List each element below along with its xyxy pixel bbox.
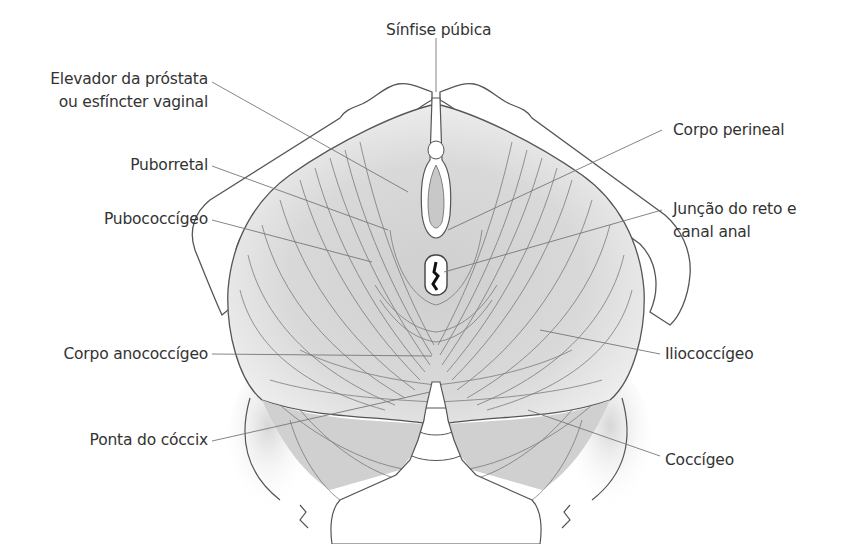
label-elevador-line1: Elevador da próstata	[50, 69, 208, 90]
label-corpo-perineal: Corpo perineal	[673, 120, 784, 141]
label-juncao-line2: canal anal	[673, 222, 751, 243]
label-pubococcigeo: Pubococcígeo	[104, 209, 208, 230]
label-ponta-coccix: Ponta do cóccix	[90, 430, 208, 451]
label-sinfise-pubica: Sínfise púbica	[386, 20, 491, 41]
label-elevador-line2: ou esfíncter vaginal	[59, 92, 208, 113]
anal-opening	[425, 255, 447, 295]
label-iliococcigeo: Iliococcígeo	[665, 344, 753, 365]
label-puborretal: Puborretal	[130, 155, 208, 176]
label-coccigeo: Coccígeo	[665, 450, 734, 471]
label-juncao-line1: Junção do reto e	[673, 199, 796, 220]
label-corpo-anococcigeo: Corpo anococcígeo	[63, 344, 208, 365]
